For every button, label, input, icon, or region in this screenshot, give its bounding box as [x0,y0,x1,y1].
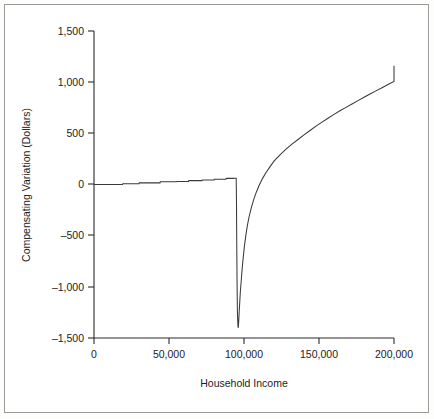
plot-container: 1,500 1,000 500 0 –500 –1,000 –1,500 0 5… [0,0,434,419]
y-tick-label-minus-1500: –1,500 [52,332,84,344]
y-tick-label-1500: 1,500 [58,25,84,37]
x-tick-label-150000: 150,000 [300,348,338,360]
axes-group [94,31,394,338]
chart-page: 1,500 1,000 500 0 –500 –1,000 –1,500 0 5… [0,0,434,419]
y-tick-labels: 1,500 1,000 500 0 –500 –1,000 –1,500 [52,25,84,344]
x-tick-label-200000: 200,000 [375,348,413,360]
y-tick-label-minus-1000: –1,000 [52,281,84,293]
x-tick-label-0: 0 [91,348,97,360]
y-tick-label-1000: 1,000 [58,76,84,88]
x-tick-label-100000: 100,000 [225,348,263,360]
y-tick-label-minus-500: –500 [61,229,85,241]
compensating-variation-line-chart: 1,500 1,000 500 0 –500 –1,000 –1,500 0 5… [0,0,434,419]
x-axis-title: Household Income [200,377,288,389]
x-tick-label-50000: 50,000 [153,348,185,360]
y-tick-label-0: 0 [78,178,84,190]
x-tick-marks [94,338,394,344]
y-tick-marks [88,31,94,338]
series-line-compensating-variation [94,66,394,328]
y-tick-label-500: 500 [66,127,84,139]
x-tick-labels: 0 50,000 100,000 150,000 200,000 [91,348,413,360]
y-axis-title: Compensating Variation (Dollars) [20,108,32,262]
